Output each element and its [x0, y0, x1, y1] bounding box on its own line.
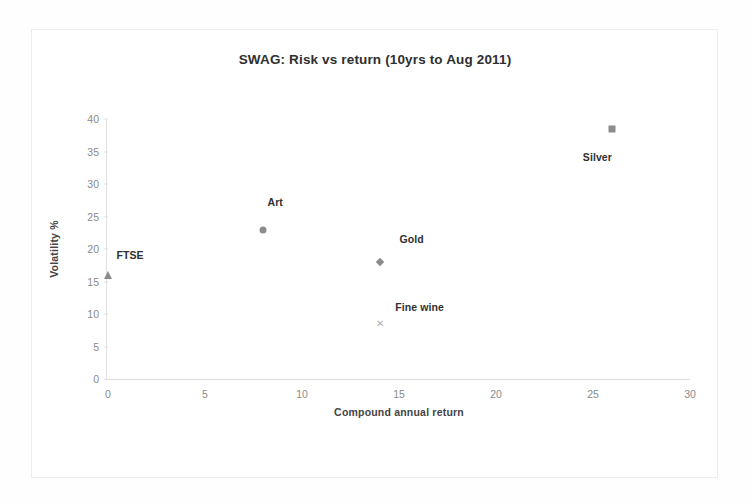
y-tick-mark: [104, 346, 108, 347]
cross-marker-icon: ✕: [376, 320, 384, 328]
square-marker-icon: [609, 125, 616, 132]
data-point-gold: [377, 259, 383, 265]
data-point-art: [260, 226, 267, 233]
y-axis-title: Volatility %: [48, 220, 60, 278]
x-tick-label: 15: [393, 388, 405, 400]
point-label-art: Art: [267, 196, 282, 208]
diamond-marker-icon: [375, 258, 383, 266]
x-tick-label: 10: [296, 388, 308, 400]
y-tick-mark: [104, 119, 108, 120]
y-tick-mark: [104, 249, 108, 250]
data-point-silver: [609, 125, 616, 132]
point-label-gold: Gold: [399, 233, 423, 245]
y-tick-mark: [104, 216, 108, 217]
plot-area: 0510152025303540 051015202530 FTSEArtGol…: [108, 119, 690, 379]
triangle-marker-icon: [104, 271, 112, 279]
data-point-fine-wine: ✕: [376, 320, 384, 328]
x-axis-title: Compound annual return: [108, 406, 690, 418]
point-label-silver: Silver: [583, 151, 612, 163]
x-tick-label: 0: [105, 388, 111, 400]
y-tick-mark: [104, 314, 108, 315]
point-label-fine-wine: Fine wine: [395, 301, 444, 313]
chart-title: SWAG: Risk vs return (10yrs to Aug 2011): [0, 52, 750, 67]
y-tick-mark: [104, 184, 108, 185]
point-label-ftse: FTSE: [116, 249, 143, 261]
chart-screenshot: SWAG: Risk vs return (10yrs to Aug 2011)…: [0, 0, 750, 502]
x-axis-line: [106, 379, 690, 380]
x-tick-label: 5: [202, 388, 208, 400]
x-tick-label: 20: [490, 388, 502, 400]
data-point-ftse: [104, 271, 112, 279]
circle-marker-icon: [260, 226, 267, 233]
x-tick-label: 25: [587, 388, 599, 400]
y-tick-mark: [104, 379, 108, 380]
x-tick-label: 30: [684, 388, 696, 400]
y-tick-mark: [104, 151, 108, 152]
y-tick-mark: [104, 281, 108, 282]
